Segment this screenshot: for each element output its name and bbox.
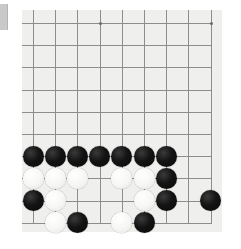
grid-line-horizontal [22, 23, 212, 24]
grid-line-vertical [77, 10, 78, 224]
left-edge-marker [0, 4, 8, 30]
grid-line-horizontal [22, 90, 212, 91]
black-stone[interactable] [67, 146, 88, 167]
grid-line-vertical [188, 10, 189, 224]
white-stone[interactable] [45, 212, 66, 233]
white-stone[interactable] [134, 190, 155, 211]
white-stone[interactable] [45, 190, 66, 211]
black-stone[interactable] [23, 190, 44, 211]
black-stone[interactable] [89, 146, 110, 167]
black-stone[interactable] [134, 212, 155, 233]
star-point [210, 22, 213, 25]
black-stone[interactable] [45, 146, 66, 167]
grid-line-horizontal [22, 67, 212, 68]
go-board[interactable] [22, 10, 222, 232]
black-stone[interactable] [156, 190, 177, 211]
black-stone[interactable] [156, 146, 177, 167]
star-point [99, 22, 102, 25]
white-stone[interactable] [67, 168, 88, 189]
grid-line-vertical [100, 10, 101, 224]
grid-line-horizontal [22, 134, 212, 135]
white-stone[interactable] [134, 168, 155, 189]
white-stone[interactable] [23, 168, 44, 189]
black-stone[interactable] [134, 146, 155, 167]
black-stone[interactable] [156, 168, 177, 189]
grid-line-vertical [122, 10, 123, 224]
grid-line-horizontal [22, 112, 212, 113]
black-stone[interactable] [111, 146, 132, 167]
screenshot-root [0, 0, 241, 249]
black-stone[interactable] [23, 146, 44, 167]
white-stone[interactable] [45, 168, 66, 189]
grid-line-horizontal [22, 45, 212, 46]
